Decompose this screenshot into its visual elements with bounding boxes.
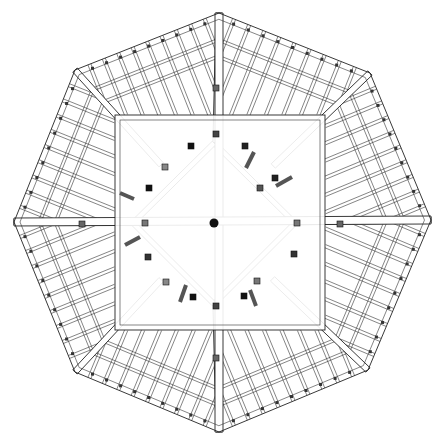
rafter bbox=[299, 54, 323, 114]
purlin bbox=[339, 103, 388, 221]
rafter bbox=[230, 329, 265, 412]
rafter bbox=[326, 163, 408, 197]
beam-block bbox=[241, 293, 247, 299]
rafter bbox=[326, 133, 395, 162]
rafter bbox=[120, 52, 145, 114]
rafter bbox=[326, 280, 394, 309]
rafter bbox=[326, 148, 402, 179]
rafter bbox=[45, 270, 116, 299]
beam-block bbox=[294, 220, 300, 226]
rafter bbox=[134, 47, 161, 115]
rafter bbox=[326, 298, 388, 324]
purlin bbox=[218, 38, 351, 91]
rafter bbox=[134, 331, 162, 397]
beam-block bbox=[213, 85, 219, 91]
roof-framing-drawing bbox=[0, 0, 440, 440]
rafter bbox=[51, 129, 115, 155]
beam-block bbox=[190, 294, 196, 300]
rafter bbox=[282, 48, 308, 114]
rafter bbox=[117, 53, 142, 115]
beam-block bbox=[213, 303, 219, 309]
rafter bbox=[324, 145, 400, 176]
rafter bbox=[324, 160, 406, 194]
purlin bbox=[41, 222, 94, 352]
rafter bbox=[324, 283, 392, 312]
beam-block bbox=[242, 143, 248, 149]
rafter bbox=[189, 355, 216, 420]
rafter bbox=[324, 248, 405, 282]
beam-block bbox=[146, 185, 152, 191]
beam-block bbox=[163, 279, 169, 285]
purlin bbox=[92, 38, 219, 88]
rafter bbox=[117, 329, 142, 389]
purlin bbox=[218, 350, 347, 404]
beam-block bbox=[213, 355, 219, 361]
rafter bbox=[247, 36, 278, 114]
center-post bbox=[210, 219, 219, 228]
beam-block bbox=[145, 254, 151, 260]
beam-block bbox=[162, 164, 168, 170]
purlin bbox=[105, 58, 218, 103]
rafter bbox=[57, 114, 115, 137]
purlin bbox=[351, 91, 405, 220]
rafter bbox=[285, 50, 311, 116]
beam-block bbox=[213, 131, 219, 137]
rafter bbox=[51, 287, 115, 313]
rafter bbox=[324, 265, 399, 296]
rafter bbox=[232, 32, 265, 116]
beam-block bbox=[291, 251, 297, 257]
rafter bbox=[228, 331, 263, 414]
rafter bbox=[326, 245, 407, 279]
rafter bbox=[50, 132, 114, 158]
purlin bbox=[218, 41, 349, 93]
rafter bbox=[300, 329, 324, 388]
rafter bbox=[324, 130, 393, 159]
rafter bbox=[250, 38, 281, 116]
rafter bbox=[229, 30, 262, 114]
rafter bbox=[344, 189, 418, 220]
rafter bbox=[297, 331, 321, 390]
rafter bbox=[57, 305, 115, 329]
purlin bbox=[336, 105, 384, 220]
beam-block bbox=[257, 185, 263, 191]
rafter bbox=[349, 223, 418, 252]
beam-block bbox=[272, 175, 278, 181]
rafter bbox=[160, 329, 193, 407]
purlin bbox=[347, 220, 401, 350]
rafter bbox=[50, 284, 114, 310]
rafter bbox=[131, 329, 159, 395]
purlin bbox=[41, 91, 94, 222]
rafter bbox=[45, 145, 116, 173]
rafter bbox=[324, 116, 387, 142]
rafter bbox=[44, 147, 115, 175]
rafter bbox=[120, 331, 145, 391]
rafter bbox=[189, 25, 216, 93]
rafter bbox=[146, 329, 176, 401]
purlin bbox=[349, 93, 402, 220]
rafter bbox=[148, 331, 178, 403]
rafter bbox=[163, 331, 196, 409]
beam-block bbox=[254, 278, 260, 284]
beam-block bbox=[142, 220, 148, 226]
rafter bbox=[326, 119, 389, 145]
beam-block bbox=[337, 221, 343, 227]
purlin bbox=[94, 352, 219, 404]
rafter bbox=[131, 48, 158, 116]
beam-block bbox=[188, 143, 194, 149]
purlin bbox=[94, 41, 219, 90]
rafter bbox=[302, 56, 326, 116]
rafter bbox=[56, 117, 114, 140]
rafter bbox=[56, 302, 114, 326]
rafter bbox=[44, 267, 115, 296]
rafter bbox=[326, 262, 401, 293]
framing-plan-svg bbox=[0, 0, 440, 440]
rafter bbox=[324, 300, 386, 326]
beam-block bbox=[79, 221, 85, 227]
